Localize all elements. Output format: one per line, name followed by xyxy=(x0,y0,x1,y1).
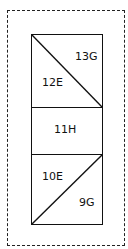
diagonal-line xyxy=(32,155,102,224)
label-10e: 10E xyxy=(42,171,63,182)
unit-stack: 13G 12E 11H 10E 9G xyxy=(31,34,103,225)
label-13g: 13G xyxy=(75,51,98,62)
cell-top-split: 13G 12E xyxy=(32,35,102,107)
label-11h: 11H xyxy=(54,124,76,135)
cell-middle: 11H xyxy=(32,107,102,155)
label-9g: 9G xyxy=(79,197,95,208)
cell-bottom-split: 10E 9G xyxy=(32,154,102,224)
label-12e: 12E xyxy=(42,77,63,88)
diagonal-line xyxy=(32,35,102,107)
